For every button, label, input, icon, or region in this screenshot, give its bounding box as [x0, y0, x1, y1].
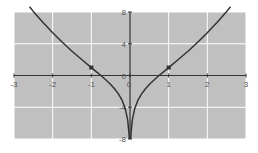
x-tick-label: 3 — [244, 80, 249, 89]
y-tick-label: 4 — [122, 40, 127, 49]
x-tick-label: -2 — [49, 80, 57, 89]
y-tick-label: 0 — [122, 72, 127, 81]
x-tick-label: -1 — [88, 80, 96, 89]
x-tick-label: 0 — [127, 80, 132, 89]
chart: -3-2-10123-8-4048 — [0, 0, 258, 153]
y-tick-label: 8 — [122, 8, 127, 17]
x-tick-label: 1 — [166, 80, 171, 89]
data-point-marker — [89, 66, 93, 70]
x-tick-label: 2 — [205, 80, 210, 89]
y-tick-label: -8 — [119, 135, 127, 144]
x-tick-label: -3 — [10, 80, 18, 89]
data-point-marker — [167, 66, 171, 70]
